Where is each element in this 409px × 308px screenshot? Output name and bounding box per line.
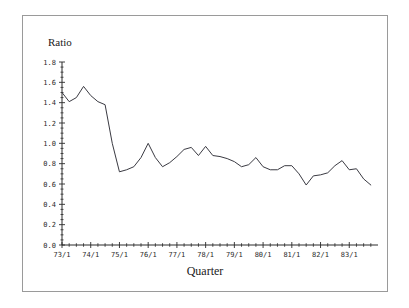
y-tick-label: 0.8 [43, 160, 56, 168]
x-tick-label: 78/1 [197, 251, 214, 259]
axes-group [62, 62, 378, 245]
y-tick-label: 1.4 [43, 99, 56, 107]
y-axis-tick-labels: 0.00.20.40.60.81.01.21.41.61.8 [43, 59, 56, 250]
line-chart: 0.00.20.40.60.81.01.21.41.61.8 73/174/17… [0, 0, 409, 308]
y-tick-label: 1.2 [43, 120, 56, 128]
x-axis-title: Quarter [187, 264, 224, 278]
y-tick-label: 0.4 [43, 201, 56, 209]
y-tick-label: 0.2 [43, 221, 56, 229]
y-tick-label: 1.8 [43, 59, 56, 67]
x-axis-tick-labels: 73/174/175/176/177/178/179/180/181/182/1… [54, 251, 358, 259]
x-tick-label: 79/1 [226, 251, 243, 259]
x-tick-label: 73/1 [54, 251, 71, 259]
y-axis-title: Ratio [48, 36, 72, 48]
x-tick-label: 75/1 [111, 251, 128, 259]
x-tick-label: 74/1 [82, 251, 99, 259]
y-tick-label: 1.6 [43, 79, 56, 87]
x-tick-label: 76/1 [140, 251, 157, 259]
x-tick-label: 82/1 [312, 251, 329, 259]
x-tick-label: 83/1 [341, 251, 358, 259]
y-tick-label: 1.0 [43, 140, 56, 148]
x-tick-label: 77/1 [168, 251, 185, 259]
y-tick-label: 0.6 [43, 181, 56, 189]
x-tick-label: 81/1 [283, 251, 300, 259]
y-tick-label: 0.0 [43, 242, 56, 250]
data-series-line [62, 86, 371, 185]
x-tick-label: 80/1 [255, 251, 272, 259]
